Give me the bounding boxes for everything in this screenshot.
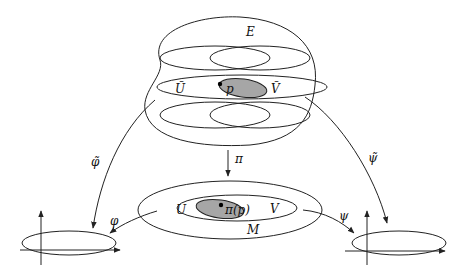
lower-fiber-ellipse-left — [160, 102, 270, 128]
label-E: E — [245, 25, 255, 39]
upper-fiber-ellipse-right — [210, 46, 310, 70]
label-psi: ψ — [339, 209, 349, 223]
label-U: U — [176, 203, 187, 217]
upper-fiber-ellipse-left — [160, 46, 270, 70]
label-pi: π — [234, 152, 244, 166]
fiber-bundle-diagram: E Ũ p Ṽ π U π(p) V M φ̃ ψ̃ φ ψ — [0, 0, 465, 277]
left-coordinate-plane — [20, 211, 120, 265]
point-p-dot — [218, 82, 222, 86]
label-tilde-U: Ũ — [175, 81, 186, 96]
label-p: p — [226, 82, 234, 96]
label-tilde-V: Ṽ — [271, 81, 281, 96]
label-phi: φ — [110, 214, 119, 228]
label-tilde-phi: φ̃ — [91, 155, 100, 169]
label-tilde-psi: ψ̃ — [368, 151, 378, 165]
projected-point-dot — [219, 203, 223, 207]
lower-fiber-ellipse-right — [210, 102, 310, 128]
label-M: M — [246, 223, 260, 237]
right-coordinate-plane — [345, 211, 446, 265]
label-V: V — [270, 202, 280, 216]
label-pi-p: π(p) — [224, 203, 250, 217]
lifted-chart-phi-arrow — [93, 100, 155, 228]
